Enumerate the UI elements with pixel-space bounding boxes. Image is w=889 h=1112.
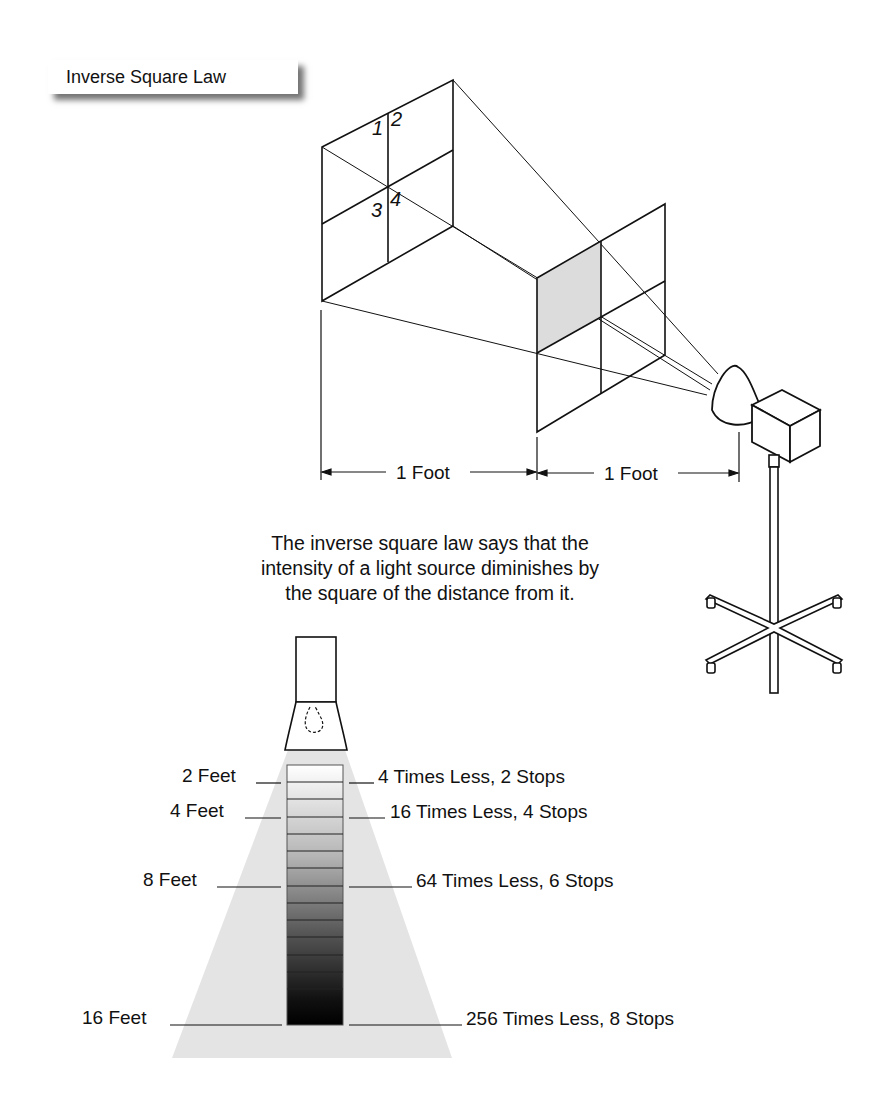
caption-line: intensity of a light source diminishes b… (200, 556, 660, 581)
overhead-lamp (285, 637, 347, 750)
far-plane (322, 80, 453, 301)
dimension-label-second: 1 Foot (604, 463, 658, 485)
distance-label-4ft: 4 Feet (170, 800, 224, 822)
dimension-label-first: 1 Foot (396, 462, 450, 484)
distance-label-2ft: 2 Feet (182, 765, 236, 787)
light-stand (706, 455, 842, 693)
quadrant-number-4: 4 (390, 188, 401, 211)
falloff-label-6-stops: 64 Times Less, 6 Stops (416, 870, 614, 892)
distance-label-16ft: 16 Feet (82, 1007, 146, 1029)
quadrant-number-1: 1 (372, 117, 383, 140)
dimension-lines (321, 310, 739, 482)
light-head (712, 366, 820, 462)
falloff-label-4-stops: 16 Times Less, 4 Stops (390, 801, 588, 823)
caption: The inverse square law says that the int… (200, 531, 660, 606)
falloff-label-8-stops: 256 Times Less, 8 Stops (466, 1008, 674, 1030)
falloff-gradient-bar (287, 765, 343, 1025)
caption-line: the square of the distance from it. (200, 581, 660, 606)
falloff-label-2-stops: 4 Times Less, 2 Stops (378, 766, 565, 788)
quadrant-number-2: 2 (391, 108, 402, 131)
quadrant-number-3: 3 (371, 199, 382, 222)
near-plane (537, 204, 665, 432)
caption-line: The inverse square law says that the (200, 531, 660, 556)
distance-label-8ft: 8 Feet (143, 869, 197, 891)
